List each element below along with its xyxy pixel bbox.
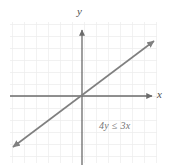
inequality-expression-label: 4y ≤ 3x xyxy=(99,121,130,131)
graph-figure: y x 4y ≤ 3x xyxy=(0,0,169,168)
y-axis-label: y xyxy=(77,6,82,17)
x-axis-label: x xyxy=(157,89,162,100)
grid-layer xyxy=(10,22,157,163)
coordinate-plane-svg xyxy=(0,0,169,168)
